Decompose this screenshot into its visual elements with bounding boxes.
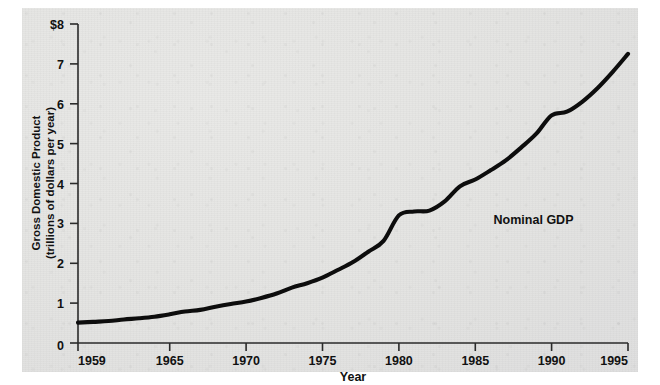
x-axis-tick-labels: 1959 1965 1970 1975 1980 1985 1990 1995 <box>78 354 628 368</box>
x-axis-title: Year <box>340 370 367 384</box>
y-tick-label: 2 <box>57 257 64 271</box>
x-tick-label: 1995 <box>600 354 628 368</box>
y-tick-label: $8 <box>50 18 64 32</box>
chart-canvas: $8 7 6 5 4 3 2 1 0 1959 1965 1970 1975 <box>0 0 660 385</box>
y-tick-label: 1 <box>57 297 64 311</box>
x-tick-label: 1965 <box>156 354 184 368</box>
y-tick-label: 3 <box>57 217 64 231</box>
x-tick-label: 1959 <box>78 354 106 368</box>
y-tick-label: 7 <box>57 58 64 72</box>
y-tick-label: 6 <box>57 98 64 112</box>
x-tick-label: 1985 <box>461 354 489 368</box>
x-tick-label: 1980 <box>385 354 413 368</box>
nominal-gdp-line <box>78 54 628 323</box>
x-tick-label: 1990 <box>538 354 566 368</box>
x-tick-label: 1970 <box>232 354 260 368</box>
x-axis-ticks <box>78 343 628 351</box>
x-tick-label: 1975 <box>309 354 337 368</box>
y-tick-label: 0 <box>57 339 64 353</box>
y-axis-ticks <box>70 24 78 343</box>
y-tick-label: 4 <box>57 178 64 192</box>
gdp-chart-figure: $8 7 6 5 4 3 2 1 0 1959 1965 1970 1975 <box>0 0 660 385</box>
y-axis-title-line2: (trillions of dollars per year) <box>44 107 56 259</box>
y-axis-title-line1: Gross Domestic Product <box>30 115 42 250</box>
nominal-gdp-annotation: Nominal GDP <box>494 213 574 227</box>
y-tick-label: 5 <box>57 138 64 152</box>
